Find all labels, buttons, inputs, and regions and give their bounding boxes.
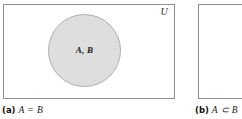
venn-diagram-figure: U A, B (a)A = B (b)A ⊂ B [0, 0, 242, 119]
panel-b [198, 4, 242, 99]
caption-b-tag: (b) [195, 105, 209, 115]
set-circle-ab: A, B [48, 14, 121, 87]
caption-a-expression: A = B [19, 105, 44, 115]
universe-label-a: U [161, 6, 168, 18]
caption-a-tag: (a) [2, 105, 16, 115]
caption-b: (b)A ⊂ B [195, 104, 238, 116]
set-circle-label: A, B [76, 45, 94, 55]
panel-a: U A, B [3, 4, 175, 99]
universe-box-b [198, 4, 242, 99]
caption-a: (a)A = B [2, 104, 43, 116]
caption-b-expression: A ⊂ B [212, 105, 238, 115]
